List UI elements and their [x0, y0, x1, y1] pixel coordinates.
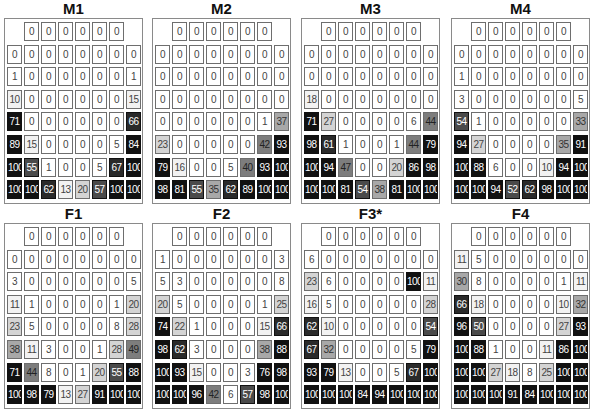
value-cell: 27: [556, 317, 571, 336]
value-cell: 100: [423, 180, 438, 199]
value-cell: 0: [505, 250, 520, 269]
grid-row: 60000000: [304, 250, 440, 269]
value-cell: 6: [488, 158, 503, 177]
value-cell: 0: [471, 67, 486, 86]
value-cell: 0: [58, 295, 73, 314]
value-cell: 0: [109, 227, 124, 246]
value-cell: 1: [338, 135, 353, 154]
grid-row: 942700003591: [454, 135, 590, 154]
value-cell: 0: [372, 363, 387, 382]
value-cell: 0: [257, 90, 272, 109]
value-cell: 0: [7, 45, 22, 64]
value-cell: 8: [109, 317, 124, 336]
value-cell: 0: [223, 45, 238, 64]
value-cell: 100: [7, 385, 22, 404]
value-cell: 0: [206, 90, 221, 109]
value-cell: 0: [406, 22, 421, 41]
value-cell: 20: [389, 158, 404, 177]
value-cell: 0: [58, 272, 73, 291]
value-cell: 18: [304, 90, 319, 109]
value-cell: 0: [321, 22, 336, 41]
value-cell: 71: [7, 112, 22, 131]
value-cell: 0: [240, 295, 255, 314]
value-cell: 0: [488, 135, 503, 154]
value-cell: 20: [75, 180, 90, 199]
panel-grid-frame: 0000001150000003080000111661800001032965…: [451, 223, 590, 409]
value-cell: 13: [58, 180, 73, 199]
value-cell: 5: [24, 317, 39, 336]
value-cell: 0: [372, 135, 387, 154]
value-cell: 0: [126, 45, 141, 64]
grid-row: 000000: [454, 22, 590, 41]
value-cell: 0: [372, 227, 387, 246]
value-cell: 0: [372, 112, 387, 131]
value-cell: 0: [389, 250, 404, 269]
value-cell: 0: [505, 227, 520, 246]
value-cell: 0: [355, 22, 370, 41]
value-cell: 5: [172, 295, 187, 314]
value-cell: 0: [522, 135, 537, 154]
value-cell: 0: [539, 272, 554, 291]
value-cell: 81: [172, 180, 187, 199]
value-cell: 62: [223, 180, 238, 199]
value-cell: 0: [488, 272, 503, 291]
value-cell: 0: [155, 90, 170, 109]
value-cell: 100: [304, 158, 319, 177]
value-cell: 93: [172, 363, 187, 382]
value-cell: 66: [454, 295, 469, 314]
grid-row: 1001001009184100100100: [454, 385, 590, 404]
value-cell: 0: [539, 112, 554, 131]
value-cell: 0: [24, 22, 39, 41]
grid-row: 00000000: [304, 45, 440, 64]
value-cell: 0: [389, 22, 404, 41]
value-cell: 0: [321, 227, 336, 246]
value-cell: 0: [539, 317, 554, 336]
value-cell: 0: [423, 250, 438, 269]
value-cell: 0: [406, 227, 421, 246]
value-cell: 0: [505, 295, 520, 314]
value-cell: 0: [24, 90, 39, 109]
value-cell: 0: [155, 112, 170, 131]
value-cell: 100: [471, 363, 486, 382]
value-cell: 100: [573, 158, 588, 177]
value-cell: 100: [274, 385, 289, 404]
grid-row: 115000000: [454, 250, 590, 269]
panel-title: F2: [152, 205, 291, 223]
grid-row: 89150000584: [7, 135, 143, 154]
empty-cell: [454, 22, 469, 41]
panel-m2: M200000000000000000000000000000000000013…: [152, 0, 291, 204]
value-cell: 0: [338, 67, 353, 86]
value-cell: 0: [338, 45, 353, 64]
value-cell: 0: [189, 22, 204, 41]
value-cell: 84: [355, 385, 370, 404]
value-cell: 0: [75, 317, 90, 336]
value-cell: 47: [338, 158, 353, 177]
value-cell: 100: [7, 180, 22, 199]
grid-row: 10000001: [7, 67, 143, 86]
value-cell: 0: [274, 90, 289, 109]
value-cell: 98: [304, 135, 319, 154]
grid-row: 100886001094100: [454, 158, 590, 177]
panel-grid-frame: 0000006000000023600001001116500000286210…: [301, 223, 440, 409]
value-cell: 0: [406, 250, 421, 269]
value-cell: 32: [573, 295, 588, 314]
empty-cell: [7, 22, 22, 41]
value-cell: 0: [172, 135, 187, 154]
value-cell: 0: [92, 272, 107, 291]
value-cell: 0: [556, 227, 571, 246]
empty-cell: [573, 22, 588, 41]
value-cell: 3: [189, 340, 204, 359]
value-cell: 100: [573, 340, 588, 359]
value-cell: 1: [471, 112, 486, 131]
value-cell: 15: [257, 317, 272, 336]
value-cell: 0: [172, 112, 187, 131]
value-cell: 50: [471, 317, 486, 336]
value-cell: 100: [423, 385, 438, 404]
value-cell: 0: [223, 112, 238, 131]
value-cell: 0: [488, 67, 503, 86]
value-cell: 0: [355, 363, 370, 382]
value-cell: 0: [75, 45, 90, 64]
value-cell: 0: [505, 135, 520, 154]
value-cell: 11: [539, 340, 554, 359]
panel-title: M4: [451, 0, 590, 18]
